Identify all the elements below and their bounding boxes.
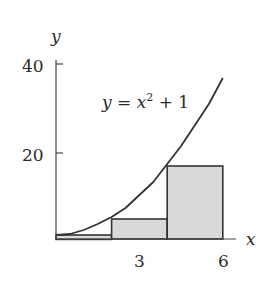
- annotation-prefix: y = x: [101, 92, 147, 112]
- curve-annotation: y = x2 + 1: [101, 91, 189, 112]
- rectangle-2: [112, 219, 168, 239]
- y-tick-label-20: 20: [22, 145, 44, 165]
- x-tick-label-3: 3: [134, 251, 145, 271]
- x-tick-label-6: 6: [218, 251, 229, 271]
- y-axis-label: y: [50, 26, 61, 46]
- x-axis-label: x: [246, 229, 256, 249]
- rectangle-3: [167, 166, 223, 239]
- annotation-exponent: 2: [146, 91, 153, 104]
- riemann-rectangles: [56, 166, 223, 239]
- riemann-sum-chart: y 40 20 x 3 6 y = x2 + 1: [0, 0, 276, 283]
- annotation-suffix: + 1: [153, 92, 189, 112]
- y-tick-label-40: 40: [22, 56, 44, 76]
